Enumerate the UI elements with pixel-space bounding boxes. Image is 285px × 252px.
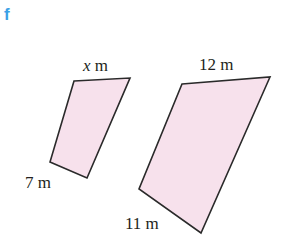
small-quadrilateral	[50, 78, 130, 178]
small-top-label: x m	[82, 56, 108, 75]
large-top-label: 12 m	[199, 55, 233, 74]
large-side-label: 11 m	[125, 214, 159, 233]
similar-shapes-diagram: f x m 7 m 12 m 11 m	[0, 0, 285, 252]
large-quadrilateral	[139, 77, 270, 233]
small-side-label: 7 m	[25, 173, 51, 192]
figure: f x m 7 m 12 m 11 m	[0, 0, 285, 252]
part-label: f	[4, 5, 10, 24]
small-top-label-unit: m	[91, 56, 108, 75]
